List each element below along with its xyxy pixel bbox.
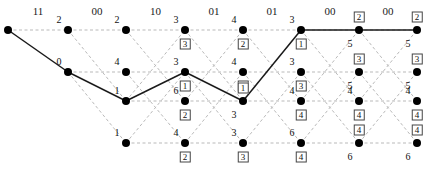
path-metric-c5-r2: 4 xyxy=(290,86,295,96)
stage-label-3: 01 xyxy=(209,6,220,17)
survivor-metric-c3-r3: 2 xyxy=(180,152,191,163)
survivor-metric-c6-r3: 4 xyxy=(354,125,365,136)
trellis-node-c2-r2[interactable] xyxy=(122,97,130,105)
trellis-node-c5-r3[interactable] xyxy=(297,139,305,147)
path-metric-c7-r0: 5 xyxy=(406,39,411,49)
survivor-metric-c3-r0: 3 xyxy=(180,39,191,50)
trellis-node-c6-r0[interactable] xyxy=(355,26,363,34)
trellis-node-c4-r0[interactable] xyxy=(239,26,247,34)
path-metric-c2-r2: 1 xyxy=(115,86,120,96)
trellis-node-c1-r1[interactable] xyxy=(64,68,72,76)
path-metric-c6-r3: 6 xyxy=(348,152,353,162)
survivor-metric-c6-r0: 2 xyxy=(354,12,365,23)
survivor-edge xyxy=(185,72,243,101)
survivor-metric-c4-r2: 1 xyxy=(238,83,249,94)
trellis-node-c3-r0[interactable] xyxy=(181,26,189,34)
path-metric-c3-r2: 6 xyxy=(174,86,179,96)
trellis-node-c6-r2[interactable] xyxy=(355,97,363,105)
trellis-node-c7-r3[interactable] xyxy=(413,139,421,147)
path-metric-c7-r2: 4 xyxy=(406,86,411,96)
path-metric-c2-r3: 1 xyxy=(115,128,120,138)
survivor-metric-c7-r2: 4 xyxy=(412,110,423,121)
trellis-node-c5-r2[interactable] xyxy=(297,97,305,105)
path-metric-c6-r0: 5 xyxy=(348,39,353,49)
survivor-metric-c5-r3: 4 xyxy=(296,152,307,163)
survivor-metric-c3-r2: 2 xyxy=(180,110,191,121)
path-metric-c6-r2: 4 xyxy=(348,86,353,96)
survivor-metric-c4-r0: 2 xyxy=(238,39,249,50)
trellis-node-c2-r3[interactable] xyxy=(122,139,130,147)
trellis-node-c3-r3[interactable] xyxy=(181,139,189,147)
path-metric-c5-r1: 3 xyxy=(290,57,295,67)
survivor-metric-c6-r2: 4 xyxy=(354,110,365,121)
trellis-node-c1-r0[interactable] xyxy=(64,26,72,34)
trellis-node-c2-r0[interactable] xyxy=(122,26,130,34)
path-metric-c1-r0: 2 xyxy=(57,15,62,25)
trellis-node-c6-r3[interactable] xyxy=(355,139,363,147)
trellis-node-c3-r2[interactable] xyxy=(181,97,189,105)
trellis-node-c4-r3[interactable] xyxy=(239,139,247,147)
path-metric-c3-r3: 4 xyxy=(174,128,179,138)
survivor-metric-c5-r1: 3 xyxy=(296,81,307,92)
path-metric-c1-r1: 0 xyxy=(57,57,62,67)
survivor-metric-c4-r3: 3 xyxy=(238,152,249,163)
path-metric-c3-r1: 3 xyxy=(174,57,179,67)
trellis-node-c7-r0[interactable] xyxy=(413,26,421,34)
trellis-diagram: 11001001010000 2024113331624242443133313… xyxy=(0,0,438,177)
trellis-node-c7-r1[interactable] xyxy=(413,68,421,76)
path-metric-c4-r2: 3 xyxy=(232,110,237,120)
path-metric-c2-r0: 2 xyxy=(115,15,120,25)
stage-label-0: 11 xyxy=(33,6,44,17)
path-metric-c5-r3: 6 xyxy=(290,128,295,138)
survivor-metric-c5-r0: 1 xyxy=(296,39,307,50)
survivor-metric-c3-r1: 1 xyxy=(180,81,191,92)
stage-label-6: 00 xyxy=(383,6,394,17)
stage-label-2: 10 xyxy=(150,6,161,17)
path-metric-c4-r3: 3 xyxy=(232,128,237,138)
survivor-metric-c7-r0: 2 xyxy=(412,12,423,23)
trellis-node-c2-r1[interactable] xyxy=(122,68,130,76)
trellis-node-c5-r0[interactable] xyxy=(297,26,305,34)
stage-label-5: 00 xyxy=(325,6,336,17)
path-metric-c4-r0: 4 xyxy=(232,15,237,25)
survivor-metric-c6-r1: 3 xyxy=(354,54,365,65)
trellis-node-c6-r1[interactable] xyxy=(355,68,363,76)
path-metric-c3-r0: 3 xyxy=(174,15,179,25)
path-metric-c4-r1: 4 xyxy=(232,57,237,67)
trellis-node-c3-r1[interactable] xyxy=(181,68,189,76)
stage-label-4: 01 xyxy=(267,6,278,17)
trellis-node-c4-r2[interactable] xyxy=(239,97,247,105)
path-metric-c5-r0: 3 xyxy=(290,15,295,25)
trellis-node-c4-r1[interactable] xyxy=(239,68,247,76)
trellis-node-c5-r1[interactable] xyxy=(297,68,305,76)
stage-label-1: 00 xyxy=(92,6,103,17)
trellis-node-c7-r2[interactable] xyxy=(413,97,421,105)
path-metric-c2-r1: 4 xyxy=(115,57,120,67)
survivor-metric-c7-r1: 3 xyxy=(412,54,423,65)
survivor-metric-c5-r2: 4 xyxy=(296,110,307,121)
path-metric-c7-r3: 6 xyxy=(406,152,411,162)
survivor-metric-c7-r3: 4 xyxy=(412,125,423,136)
trellis-node-c0-r0[interactable] xyxy=(4,26,12,34)
